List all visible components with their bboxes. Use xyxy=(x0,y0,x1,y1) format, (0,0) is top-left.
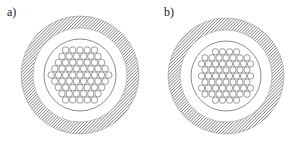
fiber-circle xyxy=(77,97,84,104)
fiber-circle xyxy=(233,85,239,91)
fiber-circle xyxy=(244,55,250,61)
fiber-circle xyxy=(70,72,77,79)
fiber-circle xyxy=(77,47,84,54)
fiber-circle xyxy=(247,73,253,79)
fiber-circle xyxy=(247,61,253,67)
fiber-circle xyxy=(73,78,80,85)
fiber-circle xyxy=(226,73,232,79)
fiber-circle xyxy=(55,59,62,66)
fiber-circle xyxy=(59,78,66,85)
fiber-circle xyxy=(219,49,225,55)
fiber-circle xyxy=(52,66,59,73)
fiber-circle xyxy=(98,72,105,79)
fiber-circle xyxy=(237,67,243,73)
fiber-circle xyxy=(80,78,87,85)
fiber-circle xyxy=(70,59,77,66)
fiber-circle xyxy=(98,84,105,91)
fiber-circle xyxy=(202,55,208,61)
fiber-circle xyxy=(198,85,204,91)
fiber-circle xyxy=(244,79,250,85)
fiber-circle xyxy=(209,91,215,97)
fiber-circle xyxy=(223,55,229,61)
fiber-circle xyxy=(59,90,66,97)
fiber-circle xyxy=(73,53,80,60)
fiber-circle xyxy=(48,72,55,79)
fiber-circle xyxy=(84,47,91,54)
fiber-circle xyxy=(91,84,98,91)
fiber-circle xyxy=(66,66,73,73)
fiber-circle xyxy=(62,97,69,104)
fiber-circle xyxy=(212,49,218,55)
fiber-circle xyxy=(66,78,73,85)
fiber-circle xyxy=(80,90,87,97)
fiber-circle xyxy=(62,47,69,54)
fiber-circle xyxy=(202,79,208,85)
fiber-circle xyxy=(55,72,62,79)
fiber-circle xyxy=(95,66,102,73)
fiber-circle xyxy=(88,53,95,60)
fiber-circle xyxy=(233,73,239,79)
fiber-circle xyxy=(223,91,229,97)
fiber-circle xyxy=(240,85,246,91)
fiber-circle xyxy=(91,59,98,66)
fiber-circle xyxy=(88,66,95,73)
fiber-circle xyxy=(59,66,66,73)
fiber-circle xyxy=(212,73,218,79)
fiber-circle xyxy=(223,67,229,73)
fiber-circle xyxy=(212,97,218,103)
fiber-circle xyxy=(88,78,95,85)
fiber-circle xyxy=(91,47,98,54)
fiber-circle xyxy=(247,85,253,91)
fiber-circle xyxy=(91,97,98,104)
fiber-circle xyxy=(237,55,243,61)
fiber-circle xyxy=(73,90,80,97)
fiber-circle xyxy=(98,59,105,66)
fiber-circle xyxy=(202,67,208,73)
fiber-circle xyxy=(230,79,236,85)
fiber-circle xyxy=(62,72,69,79)
fiber-circle xyxy=(216,67,222,73)
fiber-circle xyxy=(216,55,222,61)
fiber-circle xyxy=(198,61,204,67)
fiber-circle xyxy=(216,91,222,97)
fiber-circle xyxy=(52,78,59,85)
fiber-circle xyxy=(73,66,80,73)
fiber-circle xyxy=(230,55,236,61)
fiber-circle xyxy=(233,49,239,55)
fiber-bundle-diagram xyxy=(0,0,298,143)
fiber-circle xyxy=(70,47,77,54)
fiber-circle xyxy=(237,91,243,97)
fiber-circle xyxy=(226,85,232,91)
fiber-circle xyxy=(62,59,69,66)
fiber-circle xyxy=(244,91,250,97)
fiber-circle xyxy=(226,61,232,67)
fiber-circle xyxy=(62,84,69,91)
fiber-circle xyxy=(80,66,87,73)
fiber-circle xyxy=(205,73,211,79)
fiber-circle xyxy=(237,79,243,85)
fiber-circle xyxy=(91,72,98,79)
fiber-circle xyxy=(77,72,84,79)
fiber-circle xyxy=(219,61,225,67)
fiber-circle xyxy=(233,97,239,103)
fiber-circle xyxy=(84,59,91,66)
fiber-circle xyxy=(84,72,91,79)
fiber-circle xyxy=(226,97,232,103)
fiber-circle xyxy=(209,55,215,61)
fiber-circle xyxy=(66,90,73,97)
fiber-circle xyxy=(80,53,87,60)
fiber-circle xyxy=(240,73,246,79)
fiber-circle xyxy=(219,73,225,79)
fiber-circle xyxy=(66,53,73,60)
fiber-circle xyxy=(95,53,102,60)
fiber-circle xyxy=(55,84,62,91)
panel-a-cross-section xyxy=(21,16,139,134)
fiber-circle xyxy=(209,67,215,73)
fiber-circle xyxy=(205,85,211,91)
fiber-circle xyxy=(84,84,91,91)
fiber-circle xyxy=(77,84,84,91)
fiber-circle xyxy=(230,91,236,97)
fiber-circle xyxy=(205,61,211,67)
fiber-circle xyxy=(219,85,225,91)
fiber-circle xyxy=(70,84,77,91)
